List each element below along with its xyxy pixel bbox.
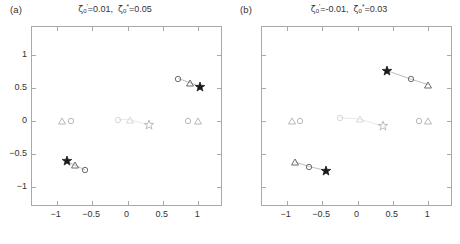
panel-a-title: ζ0'=0.01, ζ0*=0.05 <box>0 3 230 14</box>
marker-star-a-0-2 <box>194 81 205 92</box>
panel-a-title-value-1: =0.01, <box>88 4 113 14</box>
marker-star-a-4-2 <box>143 119 154 130</box>
marker-triangle-a-3-1 <box>193 117 202 125</box>
marker-triangle-a-1-1 <box>71 161 80 169</box>
marker-triangle-b-2-0 <box>287 117 296 125</box>
panel-b-title-value-1: =-0.01, <box>320 4 348 14</box>
x-tick-label-a-4: 1 <box>195 209 200 219</box>
marker-circle-a-2-1 <box>67 117 75 125</box>
x-tick-label-b-3: 0.5 <box>386 209 399 219</box>
marker-circle-b-3-0 <box>415 117 423 125</box>
x-tick-label-a-0: −1 <box>51 209 61 219</box>
marker-triangle-b-0-2 <box>424 81 433 89</box>
marker-triangle-b-4-1 <box>355 115 364 123</box>
panel-b-title: ζ0'=-0.01, ζ0*=0.03 <box>234 3 460 14</box>
marker-circle-b-4-0 <box>336 114 344 122</box>
marker-circle-a-0-0 <box>174 75 182 83</box>
panel-a-title-value-2: =0.05 <box>129 4 152 14</box>
marker-triangle-b-3-1 <box>424 117 433 125</box>
marker-star-b-4-2 <box>377 121 388 132</box>
y-tick-label-1: 0.5 <box>1 82 27 92</box>
plot-area-a <box>31 26 222 206</box>
x-tick-label-b-2: 0 <box>354 209 359 219</box>
x-tick-label-b-4: 1 <box>425 209 430 219</box>
marker-triangle-b-1-0 <box>291 158 300 166</box>
marker-circle-a-4-0 <box>114 116 122 124</box>
y-tick-label-3: −0.5 <box>1 148 27 158</box>
x-tick-label-a-1: −0.5 <box>82 209 100 219</box>
y-tick-label-2: 0 <box>1 115 27 125</box>
marker-triangle-a-0-1 <box>185 79 194 87</box>
x-tick-label-b-0: −1 <box>281 209 291 219</box>
marker-star-b-1-2 <box>321 165 332 176</box>
marker-triangle-a-2-0 <box>58 117 67 125</box>
marker-circle-b-2-1 <box>296 117 304 125</box>
x-tick-label-b-1: −0.5 <box>312 209 330 219</box>
panel-b-title-value-2: =0.03 <box>364 4 387 14</box>
marker-triangle-a-4-1 <box>125 116 134 124</box>
x-tick-label-a-3: 0.5 <box>156 209 169 219</box>
x-tick-label-a-2: 0 <box>124 209 129 219</box>
y-tick-label-0: 1 <box>1 49 27 59</box>
marker-star-b-0-0 <box>382 65 393 76</box>
marker-circle-a-1-2 <box>81 166 89 174</box>
panel-b: (b) ζ0'=-0.01, ζ0*=0.03 −1−0.500.51 <box>230 0 460 244</box>
marker-circle-a-3-0 <box>184 117 192 125</box>
marker-circle-b-0-1 <box>407 75 415 83</box>
marker-circle-b-1-1 <box>305 163 313 171</box>
panel-a: (a) ζ0'=0.01, ζ0*=0.05 −1−0.500.5110.50−… <box>0 0 230 244</box>
plot-area-b <box>261 26 452 206</box>
y-tick-label-4: −1 <box>1 181 27 191</box>
